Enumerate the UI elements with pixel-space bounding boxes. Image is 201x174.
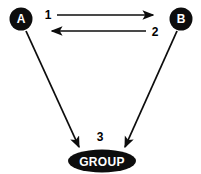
diagram-svg: A B GROUP 1 2 3: [0, 0, 201, 174]
edge-label-3: 3: [97, 130, 104, 144]
edge-label-2: 2: [152, 25, 159, 39]
edge-a-to-group: [26, 31, 79, 147]
edge-label-1: 1: [45, 8, 52, 22]
edge-b-to-group: [125, 31, 177, 147]
node-b-label: B: [177, 12, 186, 26]
node-a-label: A: [17, 12, 26, 26]
diagram-canvas: A B GROUP 1 2 3: [0, 0, 201, 174]
node-group-label: GROUP: [79, 155, 125, 169]
